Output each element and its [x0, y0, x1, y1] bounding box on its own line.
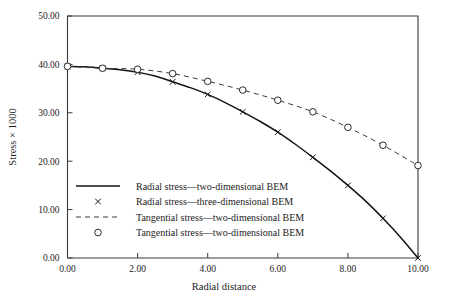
x-tick-label: 6.00 [269, 264, 286, 274]
marker-circle-tangential [239, 87, 246, 94]
legend-label: Radial stress—two-dimensional BEM [136, 181, 288, 192]
x-axis-tick-labels: 0.002.004.006.008.0010.00 [59, 264, 429, 274]
x-tick-label: 0.00 [59, 264, 76, 274]
x-tick-label: 10.00 [407, 264, 429, 274]
marker-x-radial-3d [310, 155, 316, 161]
y-tick-label: 50.00 [38, 11, 60, 21]
stress-vs-radial-distance-chart: 0.002.004.006.008.0010.00 0.0010.0020.00… [0, 0, 449, 305]
marker-x-radial-3d [380, 216, 386, 222]
marker-x-radial-3d [345, 183, 351, 189]
legend-circle-icon [95, 229, 102, 236]
x-tick-label: 2.00 [129, 264, 146, 274]
y-axis-tick-labels: 0.0010.0020.0030.0040.0050.00 [38, 11, 60, 263]
legend-label: Tangential stress—two-dimensional BEM [136, 227, 304, 238]
marker-circle-tangential [275, 97, 282, 104]
chart-figure: 0.002.004.006.008.0010.00 0.0010.0020.00… [0, 0, 449, 305]
x-tick-label: 4.00 [199, 264, 216, 274]
marker-circle-tangential [99, 65, 106, 72]
y-tick-label: 40.00 [38, 60, 60, 70]
marker-x-radial-3d [240, 109, 246, 115]
series-line-tangential-2d [68, 66, 419, 165]
y-axis-title: Stress × 1000 [7, 108, 18, 165]
marker-circle-tangential [169, 70, 176, 77]
y-tick-label: 20.00 [38, 157, 60, 167]
y-tick-label: 10.00 [38, 205, 60, 215]
marker-circle-tangential [415, 162, 422, 169]
marker-circle-tangential [345, 124, 352, 131]
marker-x-radial-3d [205, 92, 211, 98]
marker-circle-tangential [310, 109, 317, 116]
marker-circle-tangential [204, 78, 211, 85]
y-tick-label: 30.00 [38, 108, 60, 118]
legend-item: Tangential stress—two-dimensional BEM [76, 212, 304, 223]
legend-label: Tangential stress—two-dimensional BEM [136, 212, 304, 223]
legend-label: Radial stress—three-dimensional BEM [136, 196, 293, 207]
marker-circle-tangential [134, 66, 141, 73]
legend-item: Radial stress—three-dimensional BEM [95, 196, 293, 207]
chart-legend: Radial stress—two-dimensional BEMRadial … [76, 181, 304, 239]
legend-item: Radial stress—two-dimensional BEM [76, 181, 288, 192]
y-tick-label: 0.00 [43, 253, 60, 263]
legend-x-icon [95, 199, 101, 205]
x-tick-label: 8.00 [340, 264, 357, 274]
marker-x-radial-3d [275, 129, 281, 135]
marker-circle-tangential [64, 63, 71, 70]
legend-item: Tangential stress—two-dimensional BEM [95, 227, 305, 238]
x-axis-title: Radial distance [192, 281, 257, 292]
marker-circle-tangential [380, 142, 387, 149]
